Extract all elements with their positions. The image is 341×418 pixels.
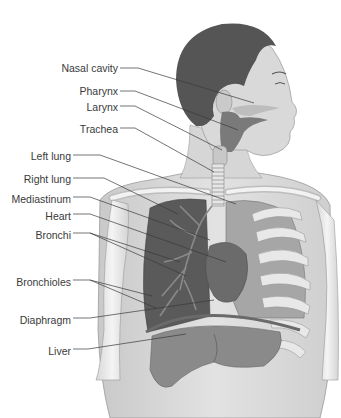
leader-right-lung bbox=[73, 178, 178, 214]
leader-bronchioles-2 bbox=[90, 280, 156, 308]
leader-liver bbox=[73, 334, 186, 349]
leader-heart bbox=[73, 214, 226, 262]
leader-pharynx bbox=[120, 91, 238, 130]
leader-mediastinum bbox=[73, 197, 210, 240]
leader-lines bbox=[0, 0, 341, 418]
leader-bronchioles-1 bbox=[73, 280, 152, 296]
leader-left-lung bbox=[73, 155, 236, 204]
leader-nasal-cavity bbox=[120, 68, 254, 103]
leader-bronchi-2 bbox=[90, 233, 186, 276]
respiratory-diagram: Nasal cavity Pharynx Larynx Trachea Left… bbox=[0, 0, 341, 418]
leader-trachea bbox=[120, 128, 214, 172]
leader-bronchi-1 bbox=[73, 233, 180, 262]
